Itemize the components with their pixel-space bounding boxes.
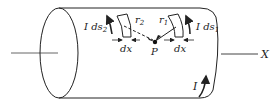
current-element-right (168, 14, 183, 37)
current-arrow-icon (199, 76, 206, 97)
r1-line (157, 27, 176, 40)
label-p: P (150, 46, 158, 57)
point-p (153, 40, 157, 44)
label-dx-right: dx (174, 43, 186, 54)
label-current: I (192, 80, 198, 93)
label-r2: r2 (135, 14, 145, 27)
current-arrow-left-icon (107, 16, 112, 34)
current-element-left (117, 14, 131, 37)
label-dx-left: dx (120, 43, 132, 54)
label-ids2: I ds2 (83, 21, 108, 34)
axis-label: X (260, 48, 270, 61)
current-arrow-right-icon (186, 16, 190, 34)
label-ids1: I ds1 (195, 21, 219, 34)
cylinder-diagram: X I ds2 I ds1 r2 r1 P dx dx I (0, 0, 280, 107)
label-r1: r1 (159, 14, 168, 27)
